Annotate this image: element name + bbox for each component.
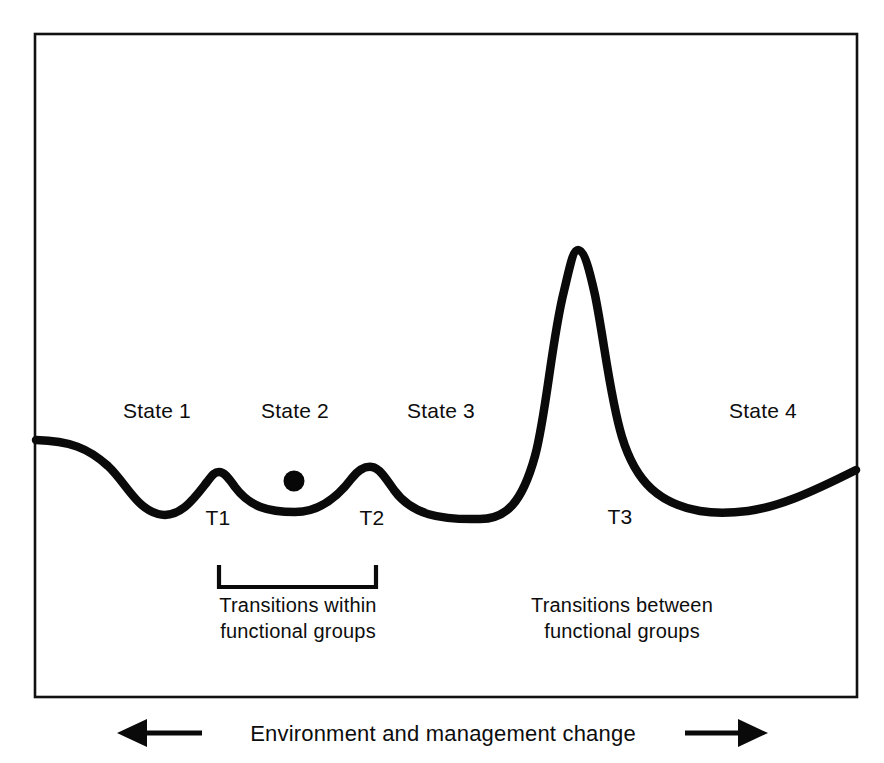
caption-between-line2: functional groups (544, 620, 700, 642)
label-state-2: State 2 (261, 399, 329, 422)
label-threshold-t1: T1 (206, 506, 231, 529)
axis-arrow-left (117, 719, 202, 747)
caption-within-line1: Transitions within (219, 594, 376, 616)
figure-canvas: State 1 State 2 State 3 State 4 T1 T2 T3… (0, 0, 884, 763)
label-state-1: State 1 (123, 399, 191, 422)
caption-between-line1: Transitions between (531, 594, 713, 616)
arrow-head-left-icon (117, 719, 147, 747)
axis-label-environment-change: Environment and management change (250, 721, 636, 746)
label-threshold-t3: T3 (608, 505, 633, 528)
arrow-head-right-icon (738, 719, 768, 747)
axis-arrow-right (685, 719, 768, 747)
stability-landscape-diagram: State 1 State 2 State 3 State 4 T1 T2 T3… (0, 0, 884, 763)
ball-marker (284, 471, 305, 492)
landscape-curve (36, 250, 856, 519)
bracket-within-groups (219, 565, 376, 587)
label-state-4: State 4 (729, 399, 797, 422)
figure-frame (35, 34, 857, 697)
caption-within-line2: functional groups (220, 620, 376, 642)
label-threshold-t2: T2 (360, 506, 385, 529)
label-state-3: State 3 (407, 399, 475, 422)
